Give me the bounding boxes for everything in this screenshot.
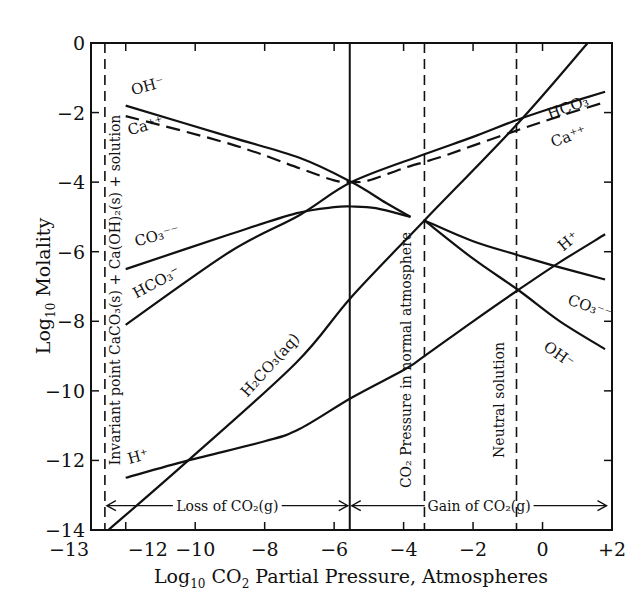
y-axis-title: Log10 Molality bbox=[32, 218, 58, 355]
series-line bbox=[126, 234, 605, 477]
y-tick-label: −10 bbox=[45, 380, 85, 402]
species-label: HCO₃⁻ bbox=[545, 89, 599, 123]
species-label: Ca⁺⁺ bbox=[548, 122, 588, 151]
x-tick-label: −12 bbox=[128, 538, 168, 560]
data-series bbox=[108, 43, 605, 530]
series-line bbox=[126, 106, 411, 217]
x-tick-label: +2 bbox=[598, 538, 626, 560]
invariant-point-label: Invariant point CaCO₃(s) + Ca(OH)₂(s) + … bbox=[107, 115, 123, 466]
chart: −13−12−10−8−6−4−20+2 0−2−4−6−8−10−12−14 … bbox=[0, 0, 642, 610]
x-tick-label: −10 bbox=[175, 538, 215, 560]
species-label: Ca⁺⁺ bbox=[126, 112, 166, 139]
species-label: OH⁻ bbox=[540, 338, 578, 372]
x-tick-label: −4 bbox=[390, 538, 418, 560]
x-tick-label: −13 bbox=[49, 538, 89, 560]
y-tick-label: −2 bbox=[57, 102, 85, 124]
neutral-solution-label: Neutral solution bbox=[491, 342, 507, 458]
y-tick-label: −6 bbox=[57, 241, 85, 263]
loss-of-co2-label: Loss of CO₂(g) bbox=[176, 498, 278, 514]
species-label: CO₃⁻⁻ bbox=[133, 221, 182, 250]
y-tick-label: −14 bbox=[45, 519, 85, 541]
y-tick-label: −12 bbox=[45, 449, 85, 471]
gain-of-co2-label: Gain of CO₂(g) bbox=[428, 498, 531, 514]
x-tick-label: −6 bbox=[320, 538, 348, 560]
y-tick-label: −8 bbox=[57, 310, 85, 332]
y-tick-label: 0 bbox=[73, 32, 85, 54]
loss-gain-arrows: Loss of CO₂(g)Gain of CO₂(g) bbox=[107, 498, 607, 514]
plot-border bbox=[91, 43, 612, 530]
species-label: OH⁻ bbox=[129, 73, 166, 99]
species-label: HCO₃⁻ bbox=[130, 262, 183, 302]
plot-frame bbox=[91, 43, 612, 530]
species-label: H⁺ bbox=[126, 445, 151, 468]
x-axis-title: Log10 CO2 Partial Pressure, Atmospheres bbox=[154, 565, 548, 591]
species-label: CO₃⁻⁻ bbox=[565, 291, 614, 324]
species-labels: OH⁻Ca⁺⁺CO₃⁻⁻HCO₃⁻H₂CO₃(aq)H⁺HCO₃⁻Ca⁺⁺H⁺C… bbox=[126, 73, 615, 468]
x-tick-label: 0 bbox=[536, 538, 548, 560]
atmosphere-co2-label: CO₂ Pressure in normal atmosphere bbox=[398, 232, 414, 488]
y-tick-label: −4 bbox=[57, 171, 85, 193]
x-tick-label: −2 bbox=[459, 538, 487, 560]
x-tick-label: −8 bbox=[251, 538, 279, 560]
